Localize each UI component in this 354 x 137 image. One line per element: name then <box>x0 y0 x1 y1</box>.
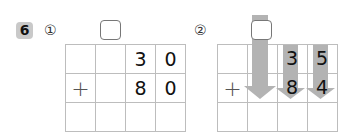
digit: 5 <box>307 47 337 69</box>
carry-answer-box-2[interactable] <box>251 20 272 40</box>
digit: 3 <box>277 47 307 69</box>
digit: 8 <box>277 76 307 98</box>
digit: 4 <box>307 76 337 98</box>
